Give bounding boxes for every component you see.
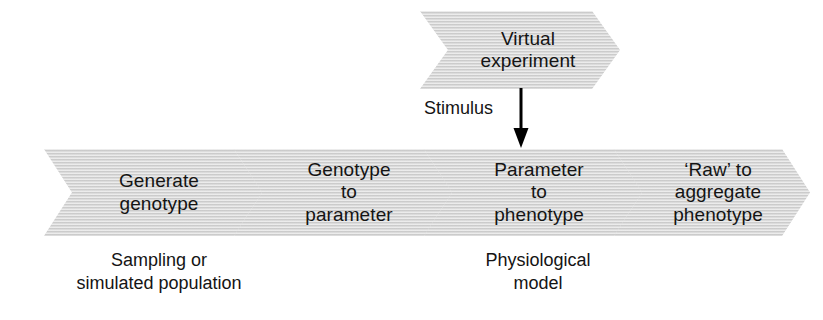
stage-raw-to-aggregate-phenotype: ‘Raw’ to aggregate phenotype — [614, 149, 810, 236]
stage-generate-genotype: Generate genotype — [44, 149, 262, 236]
stage-raw-to-aggregate-phenotype-label: ‘Raw’ to aggregate phenotype — [657, 159, 767, 226]
pipeline-diagram: Virtual experiment Stimulus Generate gen… — [0, 0, 823, 320]
stage-genotype-to-parameter: Genotype to parameter — [234, 149, 452, 236]
stage-virtual-experiment-label: Virtual experiment — [461, 28, 580, 72]
caption-parameter-to-phenotype: Physiological model — [432, 249, 644, 295]
stage-virtual-experiment: Virtual experiment — [420, 11, 620, 89]
stage-genotype-to-parameter-label: Genotype to parameter — [289, 159, 397, 226]
connector-stimulus-label: Stimulus — [424, 98, 493, 119]
stage-parameter-to-phenotype: Parameter to phenotype — [424, 149, 642, 236]
arrow-down-icon — [506, 88, 536, 150]
caption-generate-genotype: Sampling or simulated population — [34, 249, 284, 295]
stage-parameter-to-phenotype-label: Parameter to phenotype — [478, 159, 588, 226]
stage-generate-genotype-label: Generate genotype — [103, 170, 203, 214]
